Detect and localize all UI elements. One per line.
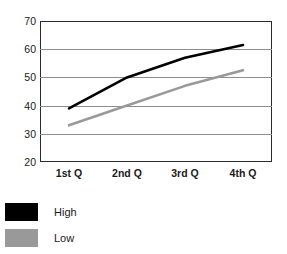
y-tick-label-50: 50 (2, 72, 36, 83)
y-tick-label-70: 70 (2, 16, 36, 27)
x-tick-label-1: 1st Q (56, 168, 82, 179)
legend-item-high[interactable]: High (5, 199, 155, 225)
x-tick-label-2: 2nd Q (112, 168, 142, 179)
y-tick-label-20: 20 (2, 157, 36, 168)
chart-legend: HighLow (5, 199, 155, 251)
legend-swatch-high (5, 203, 38, 221)
series-lines (40, 21, 272, 162)
plot-area (40, 21, 272, 162)
legend-swatch-low (5, 229, 38, 247)
y-tick-label-60: 60 (2, 44, 36, 55)
x-axis: 1st Q2nd Q3rd Q4th Q (40, 168, 272, 182)
chart-page: 706050403020 1st Q2nd Q3rd Q4th Q HighLo… (0, 0, 287, 254)
y-tick-label-40: 40 (2, 100, 36, 111)
y-tick-label-30: 30 (2, 129, 36, 140)
x-tick-label-3: 3rd Q (171, 168, 198, 179)
x-tick-label-4: 4th Q (230, 168, 257, 179)
y-axis: 706050403020 (0, 21, 36, 162)
legend-label-high: High (54, 207, 77, 218)
series-line-low (69, 70, 243, 125)
legend-item-low[interactable]: Low (5, 225, 155, 251)
legend-label-low: Low (54, 233, 74, 244)
